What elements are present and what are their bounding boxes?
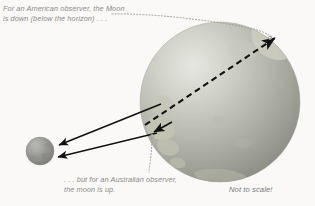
diagram-canvas: For an American observer, the Moon is do… (0, 0, 315, 206)
caption-american-line1: For an American observer, the Moon (3, 4, 125, 14)
caption-australian-line1: . . . but for an Australian observer, (64, 175, 177, 185)
caption-australian-line2: the moon is up. (64, 185, 177, 195)
caption-not-to-scale: Not to scale! (229, 185, 273, 195)
sight-arrow-lower (58, 133, 157, 157)
caption-american-line2: is down (below the horizon) . . . (3, 14, 125, 24)
caption-australian-observer: . . . but for an Australian observer, th… (64, 175, 177, 194)
caption-american-observer: For an American observer, the Moon is do… (3, 4, 125, 23)
moon-globe (26, 137, 54, 165)
earth-globe (140, 22, 300, 185)
